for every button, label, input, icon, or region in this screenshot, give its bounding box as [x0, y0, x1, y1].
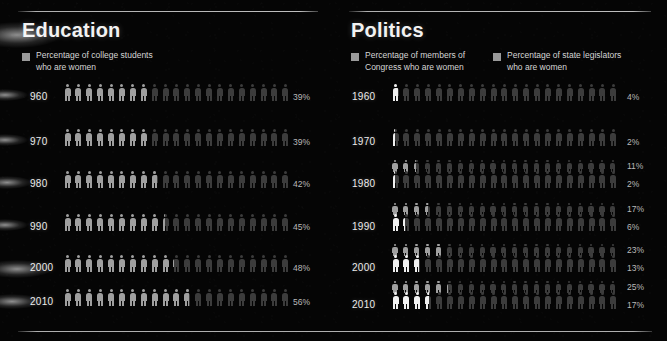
person-icon	[501, 129, 508, 146]
politics-congress-percent-label: 6%	[627, 222, 639, 232]
person-icon	[610, 84, 617, 101]
politics-congress-pictogram-1960	[392, 84, 621, 101]
person-icon	[64, 129, 71, 146]
person-icon	[249, 84, 256, 101]
person-icon	[588, 255, 595, 272]
person-icon	[227, 255, 234, 272]
person-icon	[403, 171, 410, 188]
politics-congress-percent-label: 17%	[627, 300, 644, 310]
person-icon-partial	[151, 129, 162, 146]
person-icon	[216, 84, 223, 101]
person-icon	[118, 255, 125, 272]
education-pictogram-2000	[64, 255, 293, 272]
person-icon	[425, 255, 432, 272]
person-icon	[249, 289, 256, 306]
person-icon	[414, 255, 419, 272]
person-icon	[75, 171, 82, 188]
education-pictogram-2010	[64, 289, 293, 306]
person-icon	[501, 171, 508, 188]
politics-congress-pictogram-2000	[392, 255, 621, 272]
person-icon	[544, 84, 551, 101]
person-icon	[414, 84, 421, 101]
person-icon	[599, 214, 606, 231]
person-icon	[555, 171, 562, 188]
person-icon	[151, 84, 152, 101]
person-icon	[490, 292, 497, 309]
person-icon	[610, 129, 617, 146]
person-icon-partial	[173, 255, 184, 272]
person-icon	[108, 289, 115, 306]
person-icon	[555, 255, 562, 272]
person-icon	[64, 255, 71, 272]
education-panel: Education Percentage of college students…	[0, 0, 333, 341]
person-icon-partial	[151, 171, 162, 188]
education-percent-label: 39%	[293, 137, 310, 147]
person-icon	[173, 84, 180, 101]
person-icon	[436, 255, 443, 272]
person-icon	[260, 214, 267, 231]
education-year-label: 980	[30, 178, 48, 189]
person-icon	[118, 289, 125, 306]
politics-legislators-percent-label: 17%	[627, 204, 644, 214]
person-icon	[610, 214, 617, 231]
person-icon	[162, 289, 169, 306]
person-icon	[534, 292, 541, 309]
person-icon	[238, 171, 245, 188]
person-icon	[195, 214, 202, 231]
person-icon	[577, 214, 584, 231]
person-icon	[436, 84, 443, 101]
person-icon	[457, 214, 464, 231]
person-icon	[108, 129, 115, 146]
person-icon	[577, 292, 584, 309]
person-icon	[271, 214, 278, 231]
education-pictogram-1960	[64, 84, 293, 101]
person-icon	[238, 255, 245, 272]
person-icon	[446, 171, 453, 188]
person-icon	[392, 255, 399, 272]
politics-year-label: 1980	[352, 178, 375, 189]
person-icon	[75, 255, 82, 272]
education-year-label: 990	[30, 221, 48, 232]
person-icon	[271, 255, 278, 272]
person-icon	[184, 84, 191, 101]
person-icon	[446, 292, 453, 309]
person-icon	[108, 214, 115, 231]
person-icon	[282, 289, 289, 306]
person-icon	[610, 255, 617, 272]
person-icon-partial	[392, 84, 403, 101]
person-icon	[162, 84, 169, 101]
person-icon	[501, 214, 508, 231]
person-icon	[227, 171, 234, 188]
person-icon	[216, 255, 223, 272]
person-icon	[501, 292, 508, 309]
politics-panel: Politics Percentage of members of Congre…	[333, 0, 667, 341]
person-icon	[118, 214, 125, 231]
person-icon	[151, 214, 158, 231]
person-icon	[118, 129, 125, 146]
person-icon	[97, 84, 104, 101]
person-icon	[216, 129, 223, 146]
politics-congress-percent-label: 4%	[627, 92, 639, 102]
person-icon	[523, 255, 530, 272]
year-flare	[0, 89, 28, 101]
person-icon	[414, 292, 421, 309]
person-icon	[206, 214, 213, 231]
person-icon	[555, 292, 562, 309]
person-icon	[512, 84, 519, 101]
person-icon	[534, 129, 541, 146]
person-icon	[501, 84, 508, 101]
person-icon	[436, 171, 443, 188]
person-icon	[577, 171, 584, 188]
person-icon	[588, 292, 595, 309]
person-icon	[86, 129, 93, 146]
person-icon	[75, 129, 82, 146]
person-icon	[436, 214, 443, 231]
person-icon	[588, 214, 595, 231]
person-icon	[544, 292, 551, 309]
person-icon	[140, 214, 147, 231]
person-icon	[162, 214, 165, 231]
person-icon	[173, 255, 180, 272]
person-icon	[392, 292, 399, 309]
person-icon	[534, 171, 541, 188]
year-flare	[0, 176, 32, 189]
